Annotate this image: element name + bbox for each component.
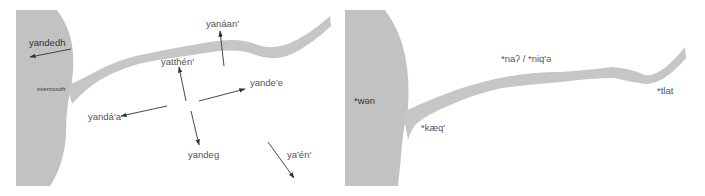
label-yandee: yande'e [250, 77, 283, 88]
label-yatthen: yatthén' [161, 56, 194, 67]
river-left [67, 16, 331, 104]
label-yandeg: yandeg [188, 149, 219, 160]
river-direction-diagram: yandedh rivermouth yanáan' yatthén' yand… [0, 0, 705, 196]
label-yaen: ya'én' [287, 149, 311, 160]
arrow-yandeg [191, 111, 199, 145]
label-yanaan: yanáan' [206, 18, 239, 29]
label-yandedh: yandedh [29, 37, 65, 48]
label-rivermouth: rivermouth [37, 86, 66, 92]
label-tlat: *tlat [657, 85, 674, 96]
arrow-yandee [199, 89, 245, 101]
arrow-yatthen [179, 67, 186, 101]
label-naq-niqe: *naʔ / *niq'ə [501, 53, 551, 64]
label-wen: *wən [354, 95, 375, 106]
arrow-yandaa [121, 106, 167, 116]
arrow-yaen [268, 142, 294, 178]
right-panel: *wən *kæq' *naʔ / *niq'ə *tlat [345, 10, 686, 186]
label-kaeq: *kæq' [421, 122, 445, 133]
left-panel: yandedh rivermouth yanáan' yatthén' yand… [16, 10, 331, 186]
label-yandaa: yandá'a [88, 111, 122, 122]
